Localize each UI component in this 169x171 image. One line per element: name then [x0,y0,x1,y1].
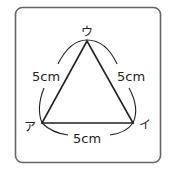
arc-bottom-side-left [42,123,68,135]
side-label-bottom: 5cm [73,131,101,146]
vertex-label-left: ア [24,120,36,134]
arc-right-side [87,40,117,64]
vertex-label-right: イ [139,118,151,132]
side-label-left: 5cm [32,69,60,84]
arc-left-side-lower [39,88,44,123]
side-label-right: 5cm [117,69,145,84]
vertex-label-top: ウ [81,25,93,39]
diagram-canvas: ウ ア イ 5cm 5cm 5cm [0,0,169,171]
arc-left-side [58,40,87,64]
arc-bottom-side-right [110,123,133,135]
